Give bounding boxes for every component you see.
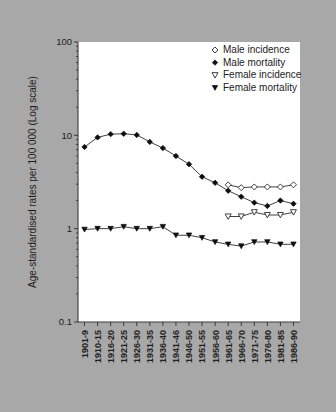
y-tick-label: 100	[56, 36, 72, 47]
x-tick-label: 1926-30	[132, 330, 142, 363]
y-tick-label: 0.1	[59, 316, 72, 327]
y-tick-label: 10	[61, 130, 72, 141]
x-tick-label: 1946-50	[184, 330, 194, 363]
y-axis-title: Age-standardised rates per 100 000 (Log …	[27, 76, 38, 288]
x-tick-label: 1921-25	[119, 330, 129, 363]
chart-svg: 1001010.1 1901-91910-151916-201921-25192…	[0, 0, 336, 412]
x-tick-label: 1966-70	[237, 330, 247, 363]
x-tick-label: 1981-85	[276, 330, 286, 363]
chart-figure: 1001010.1 1901-91910-151916-201921-25192…	[0, 0, 336, 412]
legend-label-2: Female incidence	[223, 69, 302, 80]
y-axis-label: Age-standardised rates per 100 000 (Log …	[27, 76, 38, 288]
x-tick-label: 1936-40	[158, 330, 168, 363]
legend-label-0: Male incidence	[223, 44, 290, 55]
x-tick-label: 1976-80	[263, 330, 273, 363]
x-tick-label: 1931-35	[145, 330, 155, 363]
x-tick-label: 1956-60	[211, 330, 221, 363]
legend-label-1: Male mortality	[223, 57, 285, 68]
x-tick-label: 1971-75	[250, 330, 260, 363]
x-tick-label: 1961-65	[224, 330, 234, 363]
y-tick-label: 1	[67, 223, 72, 234]
x-tick-label: 1901-9	[80, 330, 90, 358]
x-tick-label: 1941-46	[171, 330, 181, 363]
x-tick-label: 1951-55	[197, 330, 207, 363]
x-tick-label: 1910-15	[93, 330, 103, 363]
x-tick-label: 1986-90	[289, 330, 299, 363]
x-tick-label: 1916-20	[106, 330, 116, 363]
chart-legend: Male incidenceMale mortalityFemale incid…	[212, 44, 302, 93]
legend-label-3: Female mortality	[223, 82, 297, 93]
